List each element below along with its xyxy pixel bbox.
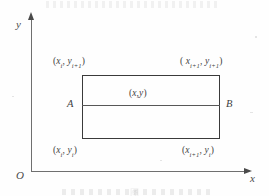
figure-canvas: y x O (xi, yi+1) ( xi+1, yi+1) (xi, yi) … bbox=[0, 0, 269, 196]
origin-label: O bbox=[16, 169, 24, 181]
interior-point-label: (x,y) bbox=[129, 88, 147, 98]
corner-label-top-left: (xi, yi+1) bbox=[53, 56, 85, 66]
scan-speck bbox=[255, 36, 257, 38]
coord-x-symbol: x bbox=[185, 145, 189, 155]
interpolation-line-ab bbox=[82, 105, 220, 106]
corner-label-top-right: ( xi+1, yi+1) bbox=[180, 56, 222, 66]
x-axis-label: x bbox=[250, 172, 255, 184]
y-axis-label: y bbox=[16, 18, 21, 30]
coord-x-symbol: x bbox=[56, 145, 60, 155]
coord-x-subscript: i bbox=[61, 151, 63, 158]
coord-y-subscript: i+1 bbox=[72, 62, 82, 69]
coord-x-subscript: i+1 bbox=[190, 151, 200, 158]
scan-speck bbox=[160, 160, 162, 161]
vertex-label-b: B bbox=[226, 98, 232, 109]
scan-speck bbox=[250, 112, 253, 113]
y-axis-arrow-icon bbox=[28, 12, 34, 20]
coord-x-subscript: i bbox=[61, 62, 63, 69]
x-axis-line bbox=[31, 171, 245, 172]
point-x-symbol: x bbox=[132, 88, 136, 98]
coord-x-subscript: i+1 bbox=[190, 62, 200, 69]
coord-x-symbol: x bbox=[56, 56, 60, 66]
y-axis-line bbox=[31, 19, 32, 172]
scan-speck bbox=[12, 96, 14, 97]
coord-y-subscript: i bbox=[209, 151, 211, 158]
scan-artifact-top bbox=[46, 1, 218, 8]
corner-label-bottom-right: (xi+1, yi) bbox=[182, 145, 214, 155]
figure-caption: 图 bbox=[0, 186, 269, 196]
grid-cell-rectangle bbox=[82, 75, 220, 139]
coord-y-subscript: i+1 bbox=[209, 62, 219, 69]
coord-y-subscript: i bbox=[72, 151, 74, 158]
vertex-label-a: A bbox=[67, 98, 73, 109]
corner-label-bottom-left: (xi, yi) bbox=[53, 145, 77, 155]
point-y-symbol: y bbox=[139, 88, 143, 98]
